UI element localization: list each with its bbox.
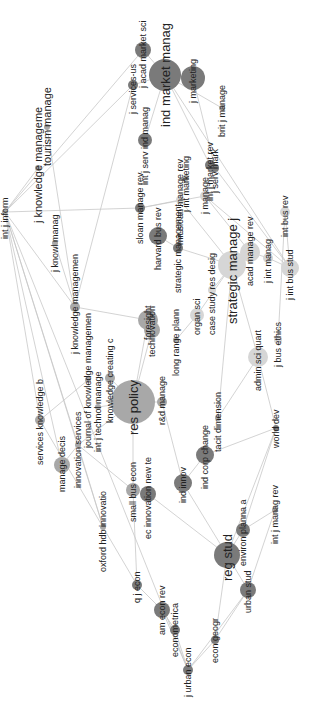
node-label: world dev xyxy=(272,410,281,449)
edge xyxy=(78,445,133,490)
edge xyxy=(5,85,133,212)
node-label: environ planna a xyxy=(239,499,248,566)
node-label: harvard bus rev xyxy=(154,207,163,270)
node-label: admin sci quart xyxy=(254,330,263,391)
node-label: case study res desig xyxy=(208,253,217,335)
node-label: oxford hdb innovatio xyxy=(99,491,108,572)
node-label: strategic manage j xyxy=(226,217,239,323)
edge xyxy=(5,50,143,212)
node-label: j int bus stud xyxy=(286,249,295,300)
node-label: journal of knowledge managemen xyxy=(84,312,93,447)
node-label: urban stud xyxy=(244,570,253,613)
edge xyxy=(5,208,140,212)
node-label: j urban econ xyxy=(184,647,193,697)
node-label: long range plann xyxy=(172,309,181,376)
node-label: ind innov xyxy=(179,467,188,503)
node-label: tacit dimension xyxy=(214,392,223,452)
edge xyxy=(218,357,258,418)
node-label: organ sci xyxy=(193,299,202,336)
node-label: res policy xyxy=(127,380,140,435)
node-label: sloan manage rev xyxy=(136,172,145,244)
node-label: j marketing xyxy=(189,59,198,103)
node-label: r&d manage xyxy=(158,375,167,424)
node-label: ind market manag xyxy=(159,23,172,127)
node-label: small bus econ xyxy=(129,461,138,521)
node-label: ind corp change xyxy=(201,425,210,489)
node-label: j int manag xyxy=(264,239,273,283)
node-label: acad manage rev xyxy=(246,216,255,286)
node-label: reg stud xyxy=(221,534,234,581)
node-label: manage decis xyxy=(58,436,67,492)
node-label: j acad market sci xyxy=(139,21,148,89)
node-label: int j technol manage xyxy=(94,371,103,452)
node-label: j manage xyxy=(201,177,210,214)
node-label: j services-us xyxy=(129,64,138,114)
node-label: int bus rev xyxy=(281,195,290,237)
node-label: technovation xyxy=(148,306,157,357)
node-label: j knowledge manageme xyxy=(33,107,44,223)
node-label: j knowl manag xyxy=(51,215,60,273)
node-label: q j econ xyxy=(133,571,142,603)
node-label: econ geogr xyxy=(211,617,220,662)
node-label: ec innovation new te xyxy=(144,457,153,539)
node-label: j knowledge managemen xyxy=(71,254,80,354)
node-label: j serv mark xyxy=(211,149,220,193)
node-label: innovation services xyxy=(74,411,83,488)
node-label: strategic management xyxy=(174,204,183,293)
node-label: am econ rev xyxy=(158,585,167,635)
node-label: econometrica xyxy=(171,603,180,657)
edge xyxy=(148,494,227,555)
node-label: knowledge creating c xyxy=(106,338,115,423)
node-label: brit j manage xyxy=(218,85,227,137)
node-label: int j inform xyxy=(1,197,10,239)
node-label: int j manag rev xyxy=(271,485,280,544)
edge xyxy=(75,85,133,307)
node-label: services knowledge b xyxy=(36,379,45,465)
node-label: j bus ethics xyxy=(274,322,283,367)
